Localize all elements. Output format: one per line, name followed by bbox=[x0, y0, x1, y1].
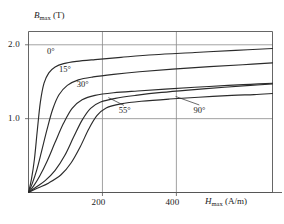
y-tick-label: 2.0 bbox=[8, 39, 20, 49]
curve-label-0deg: 0° bbox=[47, 46, 55, 56]
curve-label-55deg: 55° bbox=[119, 105, 131, 115]
y-axis-title: Bmax (T) bbox=[34, 10, 64, 20]
axis-ticks bbox=[25, 45, 176, 196]
gridlines bbox=[29, 32, 273, 193]
curve-30deg bbox=[29, 83, 273, 192]
frame-box bbox=[29, 32, 273, 193]
curve-label-90deg: 90° bbox=[194, 105, 206, 115]
x-tick-label: 200 bbox=[91, 197, 105, 207]
curve-15deg bbox=[29, 63, 273, 193]
x-axis-title: Hmax (A/m) bbox=[205, 196, 247, 206]
curve-label-30deg: 30° bbox=[77, 79, 89, 89]
y-tick-label: 1.0 bbox=[8, 113, 20, 123]
x-tick-label: 400 bbox=[165, 197, 179, 207]
chart-figure: Bmax (T) Hmax (A/m) 2004001.02.0 0°15°30… bbox=[0, 0, 284, 224]
curve-90deg bbox=[29, 94, 273, 193]
curve-label-15deg: 15° bbox=[59, 64, 71, 74]
plot-area bbox=[0, 0, 284, 224]
